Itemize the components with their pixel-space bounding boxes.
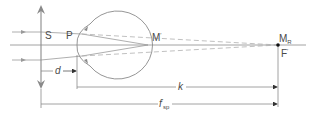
label-f-sp: f′sp xyxy=(159,98,169,110)
myopia-correction-diagram: S P M′ MR F′ d k f′sp xyxy=(0,0,314,114)
incident-ray-upper xyxy=(12,30,41,34)
label-k: k xyxy=(178,82,183,92)
label-f-prime: F′ xyxy=(281,48,288,59)
refracted-ray-lower xyxy=(41,56,82,60)
diagram-canvas xyxy=(0,0,314,114)
incident-ray-lower xyxy=(12,58,41,62)
label-s: S xyxy=(45,31,52,41)
dashed-ray-upper xyxy=(82,34,278,45)
label-m-r: MR xyxy=(279,34,292,45)
label-m-prime: M′ xyxy=(152,32,161,43)
label-d: d xyxy=(55,66,61,76)
spectacle-lens-arrow xyxy=(37,5,45,108)
dashed-ray-lower xyxy=(82,45,278,56)
label-p: P xyxy=(66,31,73,41)
